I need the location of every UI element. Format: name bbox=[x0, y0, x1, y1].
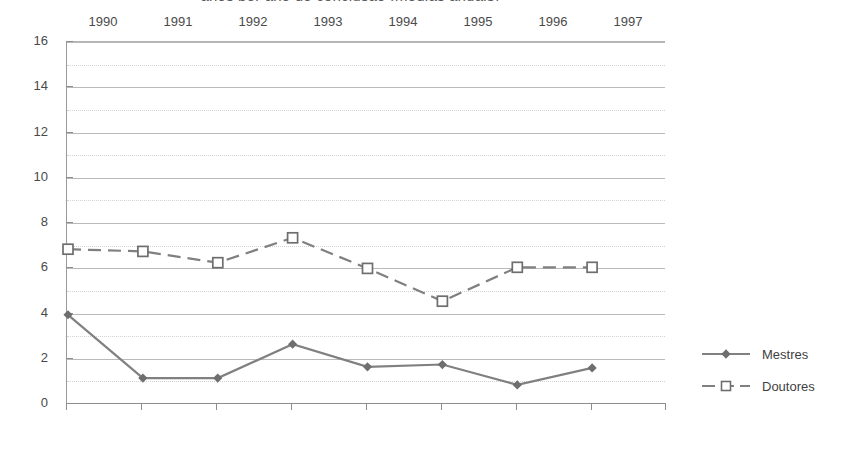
data-point-1993[interactable] bbox=[288, 233, 298, 243]
data-point-1995[interactable] bbox=[437, 296, 447, 306]
data-point-1996[interactable] bbox=[512, 262, 522, 272]
legend-label-mestres: Mestres bbox=[762, 347, 808, 362]
data-point-1994[interactable] bbox=[363, 263, 373, 273]
legend-label-doutores: Doutores bbox=[762, 379, 815, 394]
series-mestres bbox=[63, 310, 596, 389]
legend-item-doutores[interactable]: Doutores bbox=[700, 370, 846, 402]
data-point-1990[interactable] bbox=[63, 244, 73, 254]
legend-item-mestres[interactable]: Mestres bbox=[700, 338, 846, 370]
data-point-1992[interactable] bbox=[213, 258, 223, 268]
data-point-1997[interactable] bbox=[588, 363, 597, 372]
data-point-1996[interactable] bbox=[513, 380, 522, 389]
data-point-1997[interactable] bbox=[587, 262, 597, 272]
series-doutores bbox=[63, 233, 597, 306]
open-square-icon bbox=[700, 379, 752, 393]
data-point-1993[interactable] bbox=[288, 340, 297, 349]
series-line bbox=[68, 315, 592, 385]
data-point-1994[interactable] bbox=[363, 362, 372, 371]
chart-legend: Mestres Doutores bbox=[700, 338, 846, 402]
data-point-1992[interactable] bbox=[213, 374, 222, 383]
filled-diamond-icon bbox=[700, 347, 752, 361]
data-point-1991[interactable] bbox=[138, 246, 148, 256]
data-point-1995[interactable] bbox=[438, 360, 447, 369]
